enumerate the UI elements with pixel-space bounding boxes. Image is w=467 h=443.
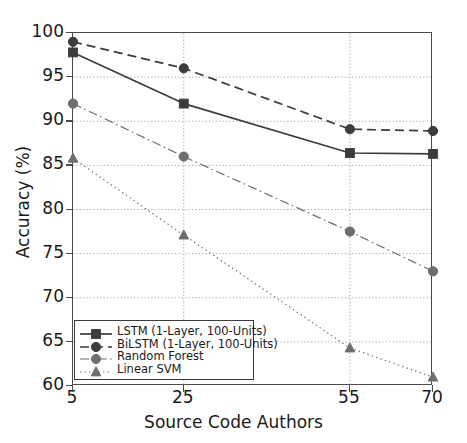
- legend-item[interactable]: Random Forest: [79, 350, 248, 363]
- series-bilstm-1-layer-100-units: [68, 37, 437, 135]
- data-point-marker: [179, 230, 189, 239]
- data-point-marker: [179, 64, 188, 73]
- data-point-marker: [428, 372, 438, 381]
- series-line: [73, 42, 433, 131]
- legend-label: Linear SVM: [113, 363, 182, 375]
- y-tick-label: 65: [0, 332, 64, 349]
- data-point-marker: [91, 367, 101, 376]
- data-point-marker: [68, 153, 78, 162]
- series-line: [73, 52, 433, 153]
- legend-item[interactable]: BiLSTM (1-Layer, 100-Units): [79, 338, 248, 351]
- series-line: [73, 104, 433, 272]
- x-tick-mark: [432, 385, 433, 392]
- data-point-marker: [179, 99, 188, 108]
- y-tick-label: 95: [0, 67, 64, 84]
- x-tick-mark: [72, 385, 73, 392]
- series-lstm-1-layer-100-units: [69, 48, 438, 158]
- data-point-marker: [68, 37, 77, 46]
- data-point-marker: [179, 152, 188, 161]
- legend: LSTM (1-Layer, 100-Units)BiLSTM (1-Layer…: [74, 320, 254, 380]
- data-point-marker: [428, 267, 437, 276]
- data-point-marker: [69, 48, 78, 57]
- legend-line-sample: [79, 363, 113, 375]
- data-point-marker: [345, 125, 354, 134]
- legend-line-sample: [79, 338, 113, 350]
- x-tick-mark: [349, 385, 350, 392]
- legend-line-sample: [79, 325, 113, 337]
- legend-label: BiLSTM (1-Layer, 100-Units): [113, 338, 278, 350]
- legend-sample-canvas: [79, 366, 113, 378]
- y-tick-label: 100: [0, 23, 64, 40]
- data-point-marker: [345, 227, 354, 236]
- x-tick-mark: [183, 385, 184, 392]
- data-point-marker: [68, 99, 77, 108]
- data-point-marker: [346, 149, 355, 158]
- x-axis-title: Source Code Authors: [0, 412, 467, 432]
- legend-line-sample: [79, 350, 113, 362]
- y-axis-title: Accuracy (%): [13, 87, 33, 317]
- legend-item[interactable]: LSTM (1-Layer, 100-Units): [79, 325, 248, 338]
- series-random-forest: [68, 99, 437, 276]
- data-point-marker: [345, 343, 355, 352]
- data-point-marker: [429, 150, 438, 159]
- legend-label: LSTM (1-Layer, 100-Units): [113, 325, 267, 337]
- data-point-marker: [428, 126, 437, 135]
- legend-item[interactable]: Linear SVM: [79, 363, 248, 376]
- legend-label: Random Forest: [113, 350, 204, 362]
- chart-figure: 6065707580859095100 5255570 Source Code …: [0, 0, 467, 443]
